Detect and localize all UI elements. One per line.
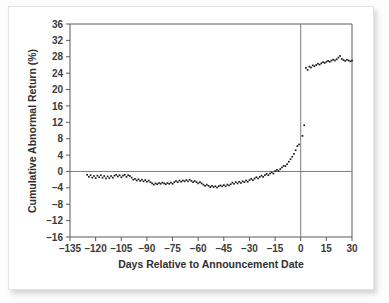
data-point <box>336 58 338 60</box>
data-point <box>349 60 351 62</box>
data-point <box>218 185 220 187</box>
data-point <box>146 181 148 183</box>
x-tick-label: 15 <box>321 243 333 254</box>
data-series-points <box>86 55 353 188</box>
x-tick-label: –135 <box>59 243 82 254</box>
data-point <box>288 161 290 163</box>
y-tick-label: 8 <box>57 133 63 144</box>
x-tick-label: 30 <box>346 243 358 254</box>
data-point <box>276 169 278 171</box>
data-point <box>110 175 112 177</box>
data-point <box>112 177 114 179</box>
data-point <box>208 185 210 187</box>
data-point <box>341 58 343 60</box>
data-point <box>102 177 104 179</box>
data-point <box>273 173 275 175</box>
data-point <box>303 124 305 126</box>
data-point <box>107 176 109 178</box>
data-point <box>196 181 198 183</box>
data-point <box>305 67 307 69</box>
data-point <box>249 179 251 181</box>
data-point <box>334 60 336 62</box>
data-point <box>141 179 143 181</box>
data-point <box>346 59 348 61</box>
data-point <box>155 183 157 185</box>
data-point <box>338 57 340 59</box>
data-point <box>344 60 346 62</box>
data-point <box>199 181 201 183</box>
data-point <box>223 184 225 186</box>
data-point <box>257 178 259 180</box>
data-point <box>158 182 160 184</box>
data-point <box>266 173 268 175</box>
data-point <box>182 180 184 182</box>
reference-lines <box>70 24 352 237</box>
data-point <box>232 182 234 184</box>
x-tick-label: 0 <box>298 243 304 254</box>
data-point <box>122 175 124 177</box>
data-point <box>129 175 131 177</box>
x-tick-label: –105 <box>110 243 133 254</box>
x-tick-label: –90 <box>139 243 156 254</box>
data-point <box>339 55 341 57</box>
y-tick-label: –8 <box>52 199 64 210</box>
data-point <box>233 183 235 185</box>
data-point <box>271 171 273 173</box>
y-tick-label: 20 <box>52 84 64 95</box>
data-point <box>119 174 121 176</box>
data-point <box>302 135 304 137</box>
data-point <box>151 183 153 185</box>
x-tick-label: –60 <box>190 243 207 254</box>
data-point <box>278 170 280 172</box>
data-point <box>286 163 288 165</box>
data-point <box>203 184 205 186</box>
y-tick-label: 4 <box>57 150 63 161</box>
data-point <box>120 176 122 178</box>
data-point <box>274 170 276 172</box>
data-point <box>307 69 309 71</box>
data-point <box>187 180 189 182</box>
data-point <box>165 183 167 185</box>
data-point <box>134 178 136 180</box>
data-point <box>138 178 140 180</box>
y-tick-label: 32 <box>52 35 64 46</box>
data-point <box>180 181 182 183</box>
data-point <box>172 183 174 185</box>
x-axis-title-text: Days Relative to Announcement Date <box>118 258 304 270</box>
data-point <box>244 181 246 183</box>
data-point <box>261 175 263 177</box>
data-point <box>331 60 333 62</box>
data-point <box>103 175 105 177</box>
y-tick-label: 0 <box>57 166 63 177</box>
data-point <box>88 176 90 178</box>
y-axis-ticks: –16–12–8–404812162024283236 <box>46 19 70 243</box>
data-point <box>109 177 111 179</box>
figure-root: Cumulative Abnormal Return (%) Days Rela… <box>0 0 389 303</box>
data-point <box>283 165 285 167</box>
data-point <box>148 180 150 182</box>
data-point <box>191 180 193 182</box>
data-point <box>136 180 138 182</box>
data-point <box>242 180 244 182</box>
axis-lines <box>70 24 352 237</box>
data-point <box>105 178 107 180</box>
data-point <box>293 153 295 155</box>
data-point <box>211 185 213 187</box>
data-point <box>281 167 283 169</box>
data-point <box>317 63 319 65</box>
data-point <box>279 168 281 170</box>
y-axis-title: Cumulative Abnormal Return (%) <box>26 49 38 213</box>
data-point <box>173 181 175 183</box>
data-point <box>267 174 269 176</box>
data-point <box>153 184 155 186</box>
data-point <box>144 179 146 181</box>
data-point <box>197 183 199 185</box>
data-point <box>189 179 191 181</box>
data-point <box>238 181 240 183</box>
data-point <box>237 183 239 185</box>
x-axis-ticks: –135–120–105–90–75–60–45–30–1501530 <box>59 237 358 254</box>
data-point <box>91 177 93 179</box>
data-point <box>264 174 266 176</box>
x-tick-label: –120 <box>85 243 108 254</box>
data-point <box>247 181 249 183</box>
